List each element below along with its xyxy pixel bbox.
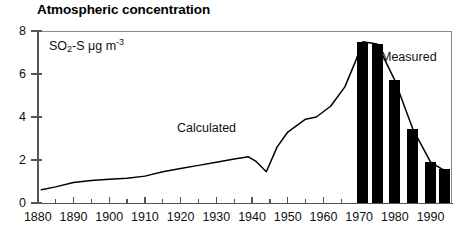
x-tick-label: 1980 <box>381 210 409 224</box>
y-tick-label: 8 <box>0 24 26 38</box>
x-tick-label: 1970 <box>345 210 373 224</box>
x-tick-mark-minor <box>162 199 163 204</box>
y-tick-label: 4 <box>0 110 26 124</box>
x-tick-mark-minor <box>341 199 342 204</box>
x-tick-mark <box>216 197 217 204</box>
y-tick-mark <box>31 159 42 160</box>
series-label-calculated: Calculated <box>177 121 236 135</box>
y-tick-mark <box>31 116 42 117</box>
x-tick-mark <box>180 197 181 204</box>
x-tick-mark <box>323 197 324 204</box>
x-tick-label: 1940 <box>238 210 266 224</box>
y-caption-sup: -3 <box>116 37 124 47</box>
x-tick-mark-minor <box>91 199 92 204</box>
y-tick-label: 2 <box>0 153 26 167</box>
x-tick-mark <box>251 197 252 204</box>
x-tick-label: 1890 <box>60 210 88 224</box>
page-title: Atmospheric concentration <box>37 2 210 17</box>
y-tick-label: 0 <box>0 196 26 210</box>
y-tick-mark <box>31 73 42 74</box>
x-tick-mark-minor <box>234 199 235 204</box>
x-tick-mark <box>287 197 288 204</box>
x-tick-label: 1990 <box>417 210 445 224</box>
x-tick-label: 1900 <box>95 210 123 224</box>
x-tick-mark <box>37 197 38 204</box>
x-tick-label: 1950 <box>274 210 302 224</box>
bar <box>439 169 450 203</box>
series-label-measured: Measured <box>381 50 437 64</box>
x-tick-label: 1910 <box>131 210 159 224</box>
x-tick-mark-minor <box>55 199 56 204</box>
bar <box>357 42 368 203</box>
x-tick-label: 1880 <box>24 210 52 224</box>
bar <box>389 80 400 203</box>
bar <box>372 44 383 203</box>
y-caption-pre: SO <box>49 39 67 53</box>
bar <box>407 129 418 203</box>
x-tick-mark <box>73 197 74 204</box>
bar <box>425 162 436 203</box>
x-tick-mark-minor <box>126 199 127 204</box>
chart-figure: Atmospheric concentration SO2-S μg m-3 0… <box>0 0 463 243</box>
x-tick-mark <box>109 197 110 204</box>
x-tick-label: 1960 <box>310 210 338 224</box>
x-tick-label: 1920 <box>167 210 195 224</box>
x-tick-mark-minor <box>305 199 306 204</box>
y-tick-label: 6 <box>0 67 26 81</box>
y-tick-mark <box>31 30 42 31</box>
y-caption-mid: -S μg m <box>72 39 116 53</box>
x-tick-label: 1930 <box>202 210 230 224</box>
x-tick-mark <box>144 197 145 204</box>
x-tick-mark-minor <box>269 199 270 204</box>
y-axis-caption: SO2-S μg m-3 <box>49 37 124 54</box>
x-tick-mark-minor <box>198 199 199 204</box>
